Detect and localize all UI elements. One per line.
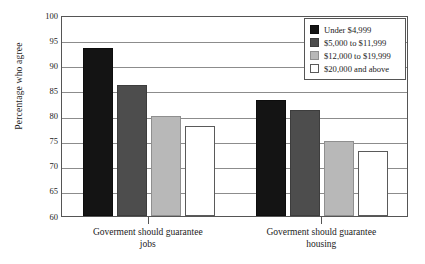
legend-swatch-icon xyxy=(310,38,319,47)
bar xyxy=(117,85,147,216)
legend-item-label: Under $4,999 xyxy=(324,25,371,35)
x-axis-category-label: Goverment should guaranteehousing xyxy=(226,226,416,250)
y-tick-label-85: 85 xyxy=(28,87,58,96)
y-tick-label-95: 95 xyxy=(28,37,58,46)
bar xyxy=(185,126,215,216)
y-tick-label-80: 80 xyxy=(28,112,58,121)
bar xyxy=(256,100,286,216)
legend: Under $4,999$5,000 to $11,999$12,000 to … xyxy=(304,18,406,80)
gridline-80 xyxy=(62,118,407,119)
y-tick-label-75: 75 xyxy=(28,137,58,146)
y-tick-label-65: 65 xyxy=(28,187,58,196)
bar xyxy=(151,116,181,217)
gridline-75 xyxy=(62,143,407,144)
y-tick-label-90: 90 xyxy=(28,62,58,71)
y-tick-label-60: 60 xyxy=(28,213,58,222)
x-axis-category-label: Goverment should guaranteejobs xyxy=(53,226,243,250)
gridline-70 xyxy=(62,168,407,169)
gridline-85 xyxy=(62,92,407,93)
bar-chart-figure: Percentage who agree 1009590858075706560… xyxy=(0,0,425,264)
category-label-line: Goverment should guarantee xyxy=(53,226,243,238)
x-axis-tick-2 xyxy=(321,217,322,224)
legend-item-label: $20,000 and above xyxy=(324,64,389,74)
gridline-65 xyxy=(62,193,407,194)
category-label-line: housing xyxy=(226,238,416,250)
y-axis-tick-labels: 1009590858075706560 xyxy=(28,16,58,217)
category-label-line: Goverment should guarantee xyxy=(226,226,416,238)
legend-swatch-icon xyxy=(310,51,319,60)
x-axis-tick-1 xyxy=(148,217,149,224)
legend-item[interactable]: $5,000 to $11,999 xyxy=(310,36,400,49)
y-tick-label-70: 70 xyxy=(28,162,58,171)
legend-item[interactable]: $20,000 and above xyxy=(310,62,400,75)
legend-swatch-icon xyxy=(310,64,319,73)
legend-swatch-icon xyxy=(310,25,319,34)
category-label-line: jobs xyxy=(53,238,243,250)
bar xyxy=(324,141,354,216)
bar xyxy=(83,48,113,216)
bar xyxy=(358,151,388,216)
y-tick-label-100: 100 xyxy=(28,12,58,21)
legend-item-label: $12,000 to $19,999 xyxy=(324,51,391,61)
legend-item[interactable]: $12,000 to $19,999 xyxy=(310,49,400,62)
bar xyxy=(290,110,320,216)
legend-item[interactable]: Under $4,999 xyxy=(310,23,400,36)
legend-item-label: $5,000 to $11,999 xyxy=(324,38,386,48)
